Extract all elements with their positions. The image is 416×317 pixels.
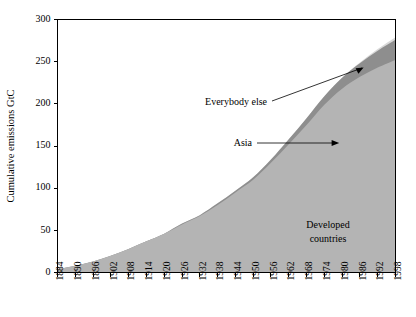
x-tick-label: 1986	[358, 261, 368, 280]
y-tick-label: 50	[41, 224, 51, 235]
annotation-developed-countries-line2: countries	[310, 233, 347, 244]
y-tick-label: 250	[36, 55, 51, 66]
x-tick-label: 1962	[286, 261, 296, 280]
y-tick-label: 300	[36, 13, 51, 24]
cumulative-emissions-chart: 050100150200250300 188418901896190219081…	[0, 0, 416, 317]
y-tick-label: 150	[36, 139, 51, 150]
x-tick-label: 1950	[251, 261, 261, 280]
x-tick-label: 1902	[109, 261, 119, 280]
x-tick-label: 1920	[162, 261, 172, 280]
annotation-developed-countries-line1: Developed	[306, 219, 349, 230]
x-tick-label: 1938	[215, 261, 225, 280]
x-tick-label: 1968	[304, 261, 314, 280]
x-tick-label: 1980	[340, 261, 350, 280]
chart-plot-area: 050100150200250300 188418901896190219081…	[0, 0, 416, 317]
x-tick-label: 1890	[73, 261, 83, 280]
x-tick-label: 1926	[180, 261, 190, 280]
x-tick-label: 1956	[269, 261, 279, 280]
x-tick-label: 1884	[55, 261, 65, 280]
x-tick-label: 1914	[144, 261, 154, 280]
annotation-asia-label: Asia	[234, 137, 253, 148]
x-tick-label: 1944	[233, 261, 243, 280]
y-tick-label: 0	[46, 266, 51, 277]
y-tick-label: 200	[36, 97, 51, 108]
x-tick-label: 1992	[375, 261, 385, 280]
y-tick-label: 100	[36, 181, 51, 192]
x-tick-label: 1896	[91, 261, 101, 280]
x-tick-label: 1932	[198, 261, 208, 280]
y-axis: 050100150200250300	[36, 13, 58, 277]
annotation-everybody-else-label: Everybody else	[205, 96, 267, 107]
x-tick-label: 1908	[126, 261, 136, 280]
y-axis-title: Cumulative emissions GtC	[5, 89, 16, 202]
x-tick-label: 1974	[322, 261, 332, 280]
x-tick-label: 1998	[393, 261, 403, 280]
